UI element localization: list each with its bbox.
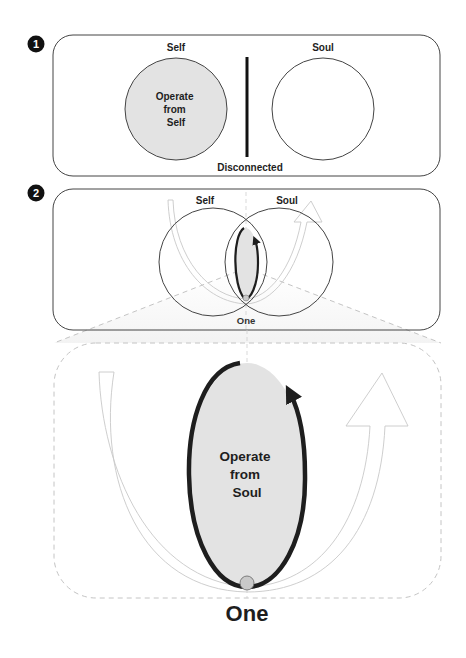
enlargement-panel: Operate from Soul One — [54, 330, 441, 626]
badge-1-number: 1 — [33, 38, 39, 50]
panel-1-self-label: Self — [167, 42, 186, 53]
operate-from-self-line-1: Operate — [156, 91, 194, 102]
panel-2-soul-label: Soul — [276, 195, 298, 206]
operate-from-self-line-2: from — [163, 104, 185, 115]
badge-2: 2 — [28, 185, 45, 202]
panel-2-self-label: Self — [196, 195, 215, 206]
soul-circle — [272, 58, 374, 160]
one-point-large — [240, 576, 254, 590]
operate-from-soul-line-3: Soul — [232, 485, 261, 500]
badge-1: 1 — [28, 36, 45, 53]
disconnected-label: Disconnected — [217, 162, 283, 173]
panel-2-one-label: One — [237, 315, 255, 326]
enlargement-one-label: One — [226, 601, 269, 626]
operate-from-soul-line-1: Operate — [220, 449, 272, 464]
badge-2-number: 2 — [33, 187, 39, 199]
operate-from-soul-line-2: from — [230, 467, 260, 482]
panel-1-soul-label: Soul — [312, 42, 334, 53]
operate-from-self-line-3: Self — [167, 117, 186, 128]
diagram-canvas: 1 Self Soul Operate from Self Disconnect… — [0, 0, 466, 658]
panel-1: 1 Self Soul Operate from Self Disconnect… — [28, 35, 441, 176]
one-point-small — [243, 295, 249, 301]
